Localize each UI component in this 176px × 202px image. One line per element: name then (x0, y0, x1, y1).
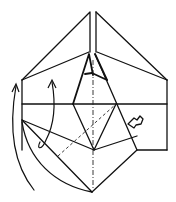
push-arrow-right (128, 116, 143, 128)
center-flap (73, 54, 107, 104)
outer-edges (22, 80, 167, 150)
valley-fold-line (58, 104, 116, 156)
top-points (22, 12, 167, 80)
fold-arrow-left-outer (12, 84, 34, 190)
fold-arrow-left-inner (39, 80, 56, 148)
origami-diagram (0, 0, 176, 202)
diagram-canvas (0, 0, 176, 202)
